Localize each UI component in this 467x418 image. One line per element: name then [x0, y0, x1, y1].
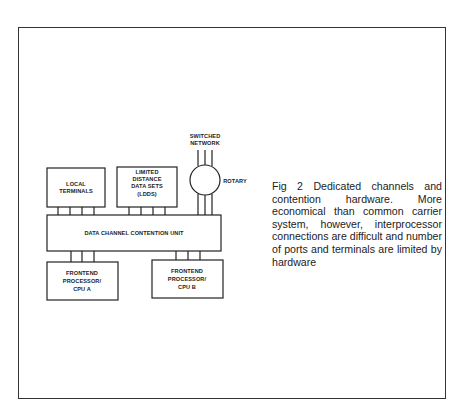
switched-network-label-2: NETWORK	[190, 140, 220, 146]
local-terminals-label-2: TERMINALS	[59, 188, 93, 194]
ldds-label-3: DATA SETS	[131, 183, 163, 189]
rotary-circle	[190, 165, 220, 195]
frontend-b-label-1: FRONTEND	[171, 268, 203, 274]
ldds-label-2: DISTANCE	[133, 176, 162, 182]
contention-unit-label: DATA CHANNEL CONTENTION UNIT	[84, 230, 184, 236]
local-terminals-label-1: LOCAL	[66, 181, 86, 187]
frontend-a-label-1: FRONTEND	[66, 270, 98, 276]
frontend-b-label-2: PROCESSOR/	[168, 276, 207, 282]
ldds-label-1: LIMITED	[135, 169, 158, 175]
frontend-a-label-2: PROCESSOR/	[63, 278, 102, 284]
rotary-label: ROTARY	[223, 178, 247, 184]
switched-network-label-1: SWITCHED	[190, 133, 221, 139]
frontend-a-label-3: CPU A	[73, 286, 91, 292]
figure-caption: Fig 2 Dedicated channels and contention …	[272, 180, 442, 268]
frontend-b-label-3: CPU B	[178, 284, 196, 290]
ldds-label-4: (LDDS)	[137, 191, 157, 197]
